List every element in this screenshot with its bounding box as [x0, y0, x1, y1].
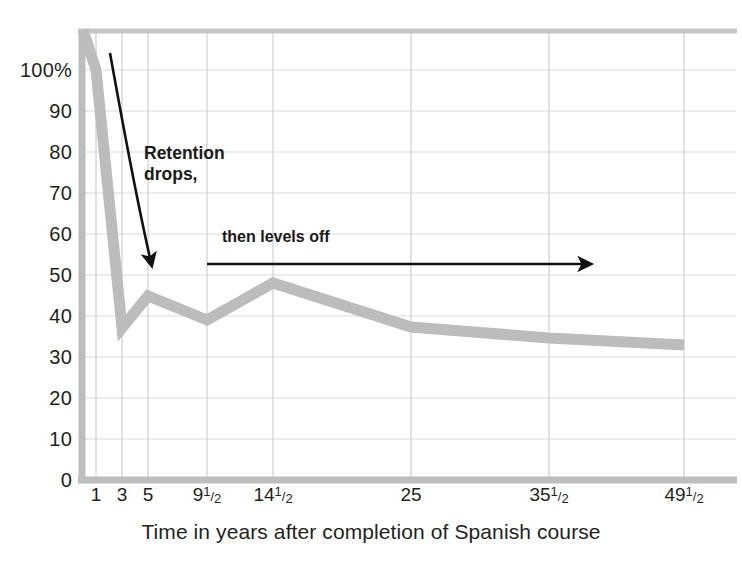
- x-tick-label-1: 1: [91, 484, 102, 506]
- x-tick-fraction-14: 1/2: [275, 489, 293, 504]
- annotation-then-levels-off: then levels off: [222, 226, 330, 247]
- x-tick-label-14.5: 141/2: [253, 484, 292, 508]
- x-tick-label-3: 3: [117, 484, 128, 506]
- x-tick-label-35.5: 351/2: [529, 484, 568, 508]
- x-tick-whole-1: 1: [91, 484, 102, 505]
- x-tick-whole-3: 3: [117, 484, 128, 505]
- x-tick-fraction-9: 1/2: [203, 489, 221, 504]
- x-tick-whole-25: 25: [400, 484, 421, 505]
- fraction-denominator: 2: [214, 491, 221, 506]
- fraction-denominator: 2: [285, 491, 292, 506]
- x-tick-whole-14: 14: [253, 484, 274, 505]
- x-tick-label-49.5: 491/2: [664, 484, 703, 508]
- retention-line-chart: 100% 90 80 70 60 50 40 30 20 10 0 1 3 5 …: [0, 0, 742, 567]
- x-tick-label-25: 25: [400, 484, 421, 506]
- x-tick-fraction-35: 1/2: [551, 489, 569, 504]
- annotation-retention-drops: Retention drops,: [144, 143, 225, 185]
- x-tick-fraction-49: 1/2: [686, 489, 704, 504]
- x-axis-title: Time in years after completion of Spanis…: [0, 519, 742, 545]
- fraction-numerator: 1: [203, 484, 210, 499]
- x-tick-label-5: 5: [143, 484, 154, 506]
- fraction-denominator: 2: [696, 491, 703, 506]
- x-tick-label-9.5: 91/2: [193, 484, 222, 508]
- x-tick-whole-49: 49: [664, 484, 685, 505]
- x-tick-whole-5: 5: [143, 484, 154, 505]
- fraction-denominator: 2: [561, 491, 568, 506]
- x-tick-whole-35: 35: [529, 484, 550, 505]
- x-tick-whole-9: 9: [193, 484, 204, 505]
- x-axis-labels: 1 3 5 91/2 141/2 25 351/2 491/2: [0, 0, 742, 567]
